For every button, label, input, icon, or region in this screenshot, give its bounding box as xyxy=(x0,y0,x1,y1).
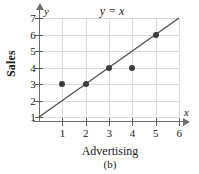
data-point xyxy=(129,65,135,71)
y-tick-label-7: 7 xyxy=(27,13,39,24)
x-axis-label: Advertising xyxy=(45,144,175,159)
data-point xyxy=(83,81,89,87)
y-tick-label-4: 4 xyxy=(27,63,39,74)
x-tick-label-3: 3 xyxy=(102,128,116,139)
y-axis-arrow-icon xyxy=(36,3,44,10)
y-tick-label-6: 6 xyxy=(27,30,39,41)
gridline-x-1 xyxy=(62,18,63,117)
y-tick-label-2: 2 xyxy=(27,96,39,107)
x-tick-label-4: 4 xyxy=(126,128,140,139)
x-tick-label-1: 1 xyxy=(56,128,70,139)
x-tick-label-6: 6 xyxy=(172,128,186,139)
y-tick-label-3: 3 xyxy=(27,79,39,90)
y-axis-line xyxy=(39,8,40,122)
y-axis-symbol: y xyxy=(44,5,49,17)
y-tick-label-5: 5 xyxy=(27,46,39,57)
x-tick-5 xyxy=(156,118,157,126)
x-tick-1 xyxy=(62,118,63,126)
gridline-x-6 xyxy=(179,18,180,117)
figure-caption: (b) xyxy=(45,158,175,170)
x-tick-label-2: 2 xyxy=(79,128,93,139)
data-point xyxy=(106,65,112,71)
x-tick-label-5: 5 xyxy=(149,128,163,139)
x-axis-symbol: x xyxy=(184,106,189,118)
gridline-x-2 xyxy=(86,18,87,117)
x-tick-6 xyxy=(179,118,180,126)
data-point xyxy=(153,32,159,38)
x-axis-arrow-icon xyxy=(183,118,190,126)
x-tick-2 xyxy=(86,118,87,126)
y-tick-label-1: 1 xyxy=(27,112,39,123)
chart-title: y = x xyxy=(77,4,147,19)
x-tick-3 xyxy=(109,118,110,126)
x-tick-4 xyxy=(132,118,133,126)
chart-figure: y = x y x 7 6 5 4 3 2 1 1 2 xyxy=(0,0,199,174)
y-axis-label: Sales xyxy=(4,37,19,91)
